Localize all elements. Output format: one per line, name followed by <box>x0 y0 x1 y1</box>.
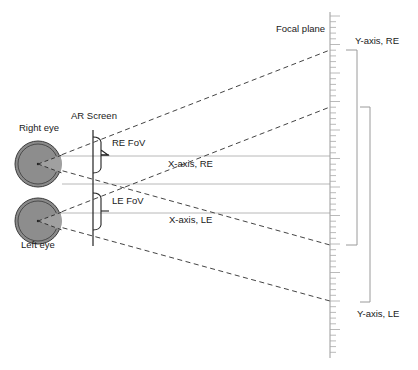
binocular-ar-diagram <box>0 0 418 370</box>
y-axis-re-label: Y-axis, RE <box>355 36 399 46</box>
re-fov-label: RE FoV <box>112 138 145 148</box>
focal-plane-label: Focal plane <box>276 24 325 34</box>
ar-screen-label: AR Screen <box>71 111 117 121</box>
left-eye-label: Left eye <box>21 240 55 250</box>
focal-plane <box>330 12 340 358</box>
x-axis-le-label: X-axis, LE <box>169 215 212 225</box>
y-axis-le-label: Y-axis, LE <box>357 309 399 319</box>
le-fov-label: LE FoV <box>112 196 144 206</box>
x-axis-re-label: X-axis, RE <box>168 159 213 169</box>
y-axis-le-bracket <box>360 107 370 302</box>
y-axis-re-bracket <box>346 50 357 245</box>
le-fov-rays <box>38 107 330 301</box>
right-eye-label: Right eye <box>19 123 59 133</box>
focal-plane-ticks <box>330 16 340 352</box>
